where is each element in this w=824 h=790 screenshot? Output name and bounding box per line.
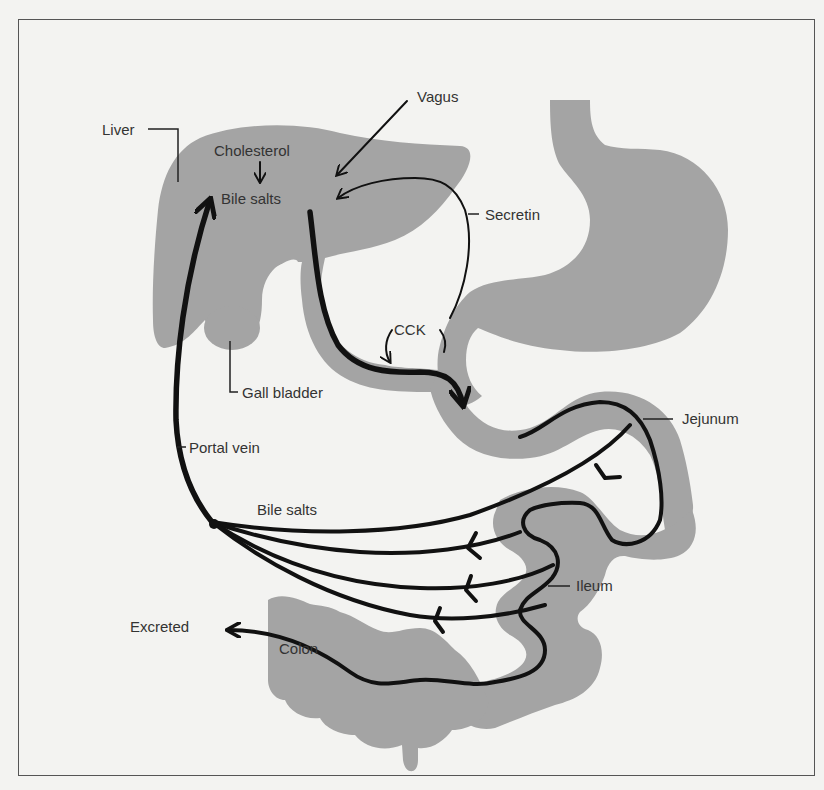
gall-bladder-shape [204, 306, 260, 350]
return-chevron-1 [596, 465, 620, 478]
cck-left-bracket [386, 330, 392, 362]
liver-shape [153, 125, 471, 392]
label-cholesterol: Cholesterol [214, 142, 290, 159]
label-cck: CCK [394, 321, 426, 338]
portal-junction [209, 519, 219, 529]
label-bile-salts-return: Bile salts [257, 501, 317, 518]
bile-circulation-diagram: Liver Cholesterol Bile salts Vagus Secre… [0, 0, 824, 790]
label-jejunum: Jejunum [682, 410, 739, 427]
label-ileum: Ileum [576, 577, 613, 594]
label-bile-salts-liver: Bile salts [221, 190, 281, 207]
stomach-shape [438, 100, 728, 406]
label-secretin: Secretin [485, 206, 540, 223]
label-liver: Liver [102, 121, 135, 138]
label-vagus: Vagus [417, 88, 458, 105]
label-colon: Colon [279, 640, 318, 657]
label-portal-vein: Portal vein [189, 439, 260, 456]
label-excreted: Excreted [130, 618, 189, 635]
label-gall-bladder: Gall bladder [242, 384, 323, 401]
